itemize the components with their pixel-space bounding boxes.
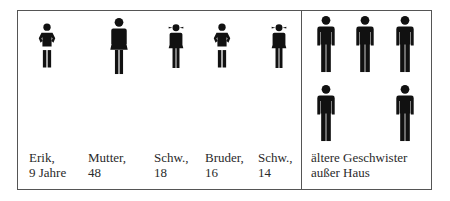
- label-name: Mutter,: [88, 150, 126, 165]
- label-name: Bruder,: [205, 150, 244, 165]
- label-age: 18: [154, 165, 189, 180]
- woman-icon: [107, 17, 131, 75]
- girl-icon: [268, 23, 290, 69]
- label-age: 48: [88, 165, 126, 180]
- household-divider: [301, 10, 302, 190]
- label-name: Schw.,: [258, 150, 293, 165]
- label-schwester-14: Schw., 14: [258, 150, 293, 180]
- label-age: 9 Jahre: [29, 165, 66, 180]
- man-icon: [393, 15, 417, 73]
- boy-icon: [36, 22, 58, 69]
- man-icon: [393, 84, 417, 142]
- label-name: Schw.,: [154, 150, 189, 165]
- label-outside-siblings: ältere Geschwister außer Haus: [311, 150, 407, 180]
- man-icon: [353, 15, 377, 73]
- label-age: 14: [258, 165, 293, 180]
- label-name: Erik,: [29, 150, 66, 165]
- label-outside-line1: ältere Geschwister: [311, 150, 407, 165]
- label-erik: Erik, 9 Jahre: [29, 150, 66, 180]
- label-age: 16: [205, 165, 244, 180]
- girl-icon: [165, 23, 187, 69]
- label-outside-line2: außer Haus: [311, 165, 407, 180]
- man-icon: [314, 84, 338, 142]
- man-icon: [314, 15, 338, 73]
- label-bruder: Bruder, 16: [205, 150, 244, 180]
- boy-icon: [211, 22, 233, 69]
- label-schwester-18: Schw., 18: [154, 150, 189, 180]
- label-mutter: Mutter, 48: [88, 150, 126, 180]
